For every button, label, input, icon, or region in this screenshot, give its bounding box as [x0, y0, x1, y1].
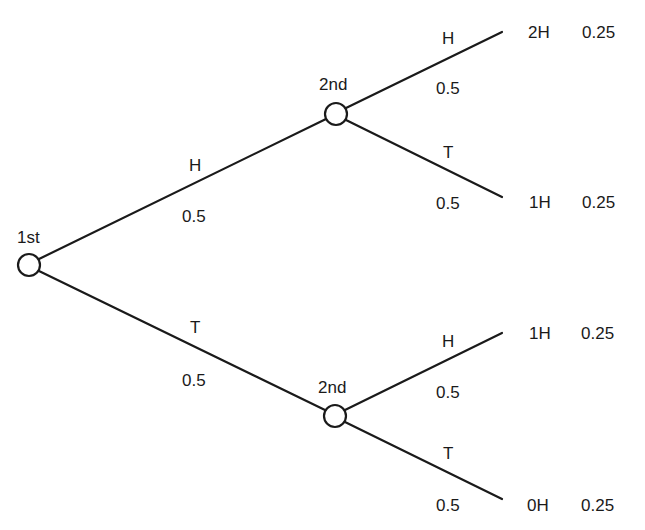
- leaf-result-2: 1H: [529, 194, 551, 211]
- branch-2nd-upper-H-prob: 0.5: [436, 80, 460, 97]
- branch-2nd-upper-T-outcome: T: [443, 144, 453, 161]
- branch-2nd-lower-H: [345, 333, 502, 410]
- branch-2nd-lower-H-outcome: H: [442, 333, 454, 350]
- branch-2nd-upper-H: [346, 32, 502, 108]
- branch-1st-H-outcome: H: [189, 157, 201, 174]
- leaf-result-1: 2H: [528, 24, 550, 41]
- leaf-joint-prob-1: 0.25: [582, 24, 615, 41]
- leaf-result-4: 0H: [527, 497, 549, 514]
- leaf-joint-prob-4: 0.25: [581, 497, 614, 514]
- branch-1st-H-prob: 0.5: [182, 208, 206, 225]
- branch-2nd-lower-T-outcome: T: [443, 445, 453, 462]
- branch-1st-T-prob: 0.5: [182, 372, 206, 389]
- leaf-joint-prob-2: 0.25: [582, 194, 615, 211]
- branch-2nd-lower-H-prob: 0.5: [436, 384, 460, 401]
- branch-1st-H: [39, 119, 326, 259]
- branch-2nd-lower-T: [345, 422, 502, 499]
- second-node-lower-label: 2nd: [318, 379, 346, 396]
- branch-2nd-upper-H-outcome: H: [442, 30, 454, 47]
- branch-2nd-upper-T-prob: 0.5: [436, 195, 460, 212]
- root-node-label: 1st: [17, 229, 40, 246]
- branch-1st-T-outcome: T: [190, 319, 200, 336]
- branch-2nd-upper-T: [346, 120, 502, 197]
- root-node: [18, 254, 40, 276]
- leaf-result-3: 1H: [529, 325, 551, 342]
- branch-2nd-lower-T-prob: 0.5: [436, 497, 460, 514]
- second-node-upper-label: 2nd: [319, 76, 347, 93]
- leaf-joint-prob-3: 0.25: [581, 325, 614, 342]
- second-node-upper: [325, 103, 347, 125]
- second-node-lower: [324, 405, 346, 427]
